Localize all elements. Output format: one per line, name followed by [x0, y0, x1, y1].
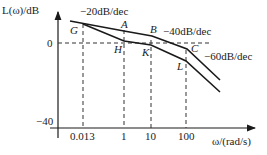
slope-label-60: −60dB/dec — [204, 50, 252, 62]
x-tick-10: 10 — [145, 130, 157, 142]
point-H: H — [113, 43, 123, 55]
point-G: G — [70, 24, 78, 36]
y-axis-label: L(ω)/dB — [2, 4, 39, 17]
point-K: K — [141, 46, 150, 58]
point-B: B — [150, 23, 157, 35]
point-A: A — [120, 18, 128, 30]
point-C: C — [191, 42, 199, 54]
point-L: L — [176, 60, 183, 72]
x-tick-0013: 0.013 — [70, 130, 95, 142]
x-tick-100: 100 — [178, 130, 195, 142]
x-tick-1: 1 — [121, 130, 127, 142]
bode-plot: L(ω)/dB ω/(rad/s) 0 −40 0.013 1 10 100 −… — [0, 0, 267, 155]
y-tick-0: 0 — [47, 37, 53, 49]
x-axis-label: ω/(rad/s) — [212, 135, 251, 148]
slope-label-40: −40dB/dec — [163, 25, 211, 37]
slope-label-20: −20dB/dec — [80, 5, 128, 17]
y-tick-neg40: −40 — [36, 115, 54, 127]
